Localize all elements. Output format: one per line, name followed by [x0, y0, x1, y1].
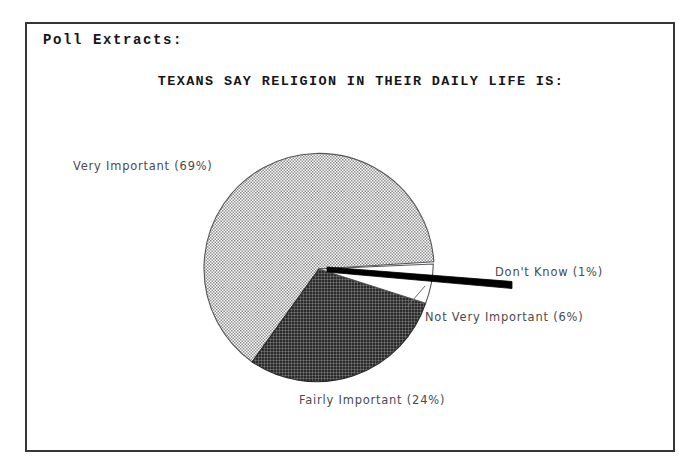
pie-label-fairly-important: Fairly Important (24%): [299, 392, 445, 407]
scan-edge-artifact: [200, 0, 530, 7]
pie-chart: Very Important (69%) Don't Know (1%) Not…: [27, 24, 677, 454]
pie-label-not-very-important: Not Very Important (6%): [425, 309, 583, 324]
pie-label-very-important: Very Important (69%): [73, 158, 213, 173]
pie-label-dont-know: Don't Know (1%): [495, 264, 603, 279]
poll-extracts-panel: Poll Extracts: TEXANS SAY RELIGION IN TH…: [25, 22, 675, 452]
pie-chart-svg: [27, 24, 677, 454]
